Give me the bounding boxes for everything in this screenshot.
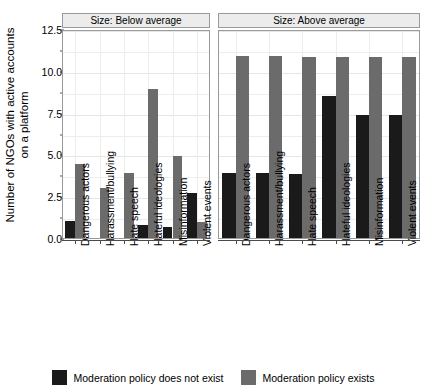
x-tick-label: Misinformation bbox=[177, 178, 189, 246]
x-tick-label: Harassment/bullying bbox=[104, 151, 116, 246]
x-tick-label: Dangerous actors bbox=[79, 163, 91, 246]
bar bbox=[222, 173, 235, 238]
x-tick-label: Hateful ideologies bbox=[152, 163, 164, 246]
bar bbox=[256, 173, 269, 238]
y-tick-label: 0.0 bbox=[36, 233, 62, 245]
chart-figure: Number of NGOs with active accounts on a… bbox=[0, 0, 427, 391]
bar bbox=[65, 221, 75, 238]
legend-item[interactable]: Moderation policy does not exist bbox=[52, 370, 223, 385]
bar bbox=[389, 115, 402, 238]
y-tick-label: 10.0 bbox=[36, 66, 62, 78]
facet-strip-label: Size: Below average bbox=[62, 13, 210, 28]
x-tick-label: Hate speech bbox=[306, 187, 318, 246]
legend-label: Moderation policy does not exist bbox=[73, 372, 223, 384]
legend-label: Moderation policy exists bbox=[262, 372, 374, 384]
facet-strip-text: Size: Below average bbox=[90, 15, 181, 26]
facet-strip-text: Size: Above average bbox=[273, 15, 365, 26]
bar bbox=[163, 227, 173, 238]
y-tick-label: 2.5 bbox=[36, 191, 62, 203]
bar bbox=[356, 115, 369, 238]
legend-key-swatch bbox=[241, 370, 256, 385]
legend-key-swatch bbox=[52, 370, 67, 385]
y-axis-title-line-2: on a platform bbox=[17, 28, 31, 223]
facet-strip-label: Size: Above average bbox=[218, 13, 420, 28]
legend-item[interactable]: Moderation policy exists bbox=[241, 370, 374, 385]
y-tick-label: 7.5 bbox=[36, 108, 62, 120]
y-axis-title: Number of NGOs with active accounts on a… bbox=[0, 0, 34, 250]
x-tick-label: Hateful ideologies bbox=[340, 163, 352, 246]
x-tick-label: Hate speech bbox=[128, 187, 140, 246]
y-tick-label: 5.0 bbox=[36, 149, 62, 161]
bar bbox=[322, 96, 335, 238]
x-axis-line bbox=[218, 240, 420, 241]
y-tick-label: 12.5 bbox=[36, 24, 62, 36]
bar bbox=[289, 174, 302, 238]
y-axis: 0.02.55.07.510.012.5 bbox=[32, 0, 62, 391]
x-tick-label: Violent events bbox=[201, 180, 213, 246]
y-axis-title-line-1: Number of NGOs with active accounts bbox=[3, 28, 17, 223]
x-axis-line bbox=[62, 240, 210, 241]
x-tick-label: Harassment/bullying bbox=[273, 151, 285, 246]
legend: Moderation policy does not existModerati… bbox=[0, 370, 427, 385]
x-tick-label: Violent events bbox=[406, 180, 418, 246]
x-tick-label: Dangerous actors bbox=[240, 163, 252, 246]
x-tick-label: Misinformation bbox=[373, 178, 385, 246]
